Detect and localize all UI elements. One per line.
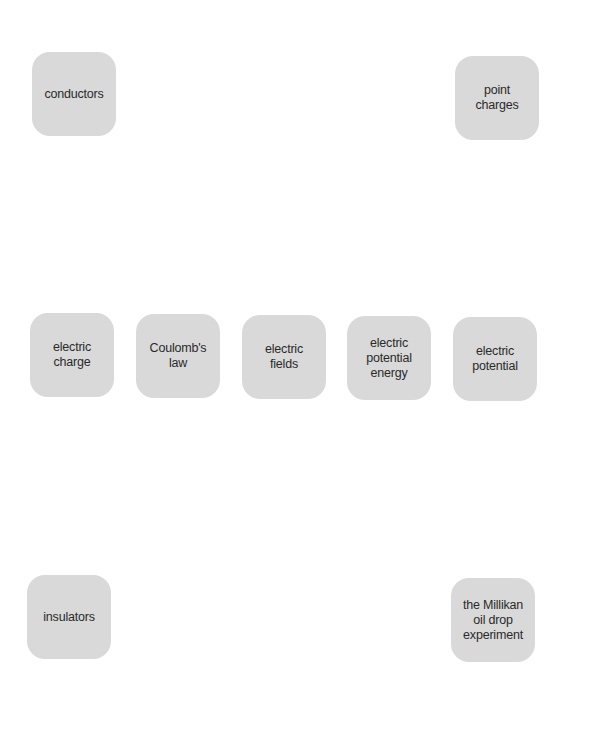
node-electric-potential: electric potential: [453, 317, 537, 401]
node-insulators: insulators: [27, 575, 111, 659]
node-electric-potential-energy: electric potential energy: [347, 316, 431, 400]
node-millikan-oil-drop: the Millikan oil drop experiment: [451, 578, 535, 662]
node-coulombs-law: Coulomb's law: [136, 314, 220, 398]
node-electric-fields: electric fields: [242, 315, 326, 399]
node-point-charges: point charges: [455, 56, 539, 140]
node-conductors: conductors: [32, 52, 116, 136]
node-electric-charge: electric charge: [30, 313, 114, 397]
